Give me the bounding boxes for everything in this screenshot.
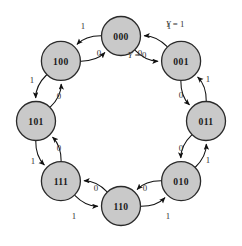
state-node-100[interactable]: 100 (41, 41, 80, 80)
transition-s100-to-s101 (36, 75, 47, 99)
states-layer: 000001011010110111101100 (17, 17, 226, 226)
state-transition-diagram: 1010101010101010 00000101101011011110110… (0, 0, 242, 246)
output-annotation-y-eq-0: Y = 0 (128, 50, 147, 60)
state-node-101[interactable]: 101 (17, 102, 56, 141)
transition-s010-to-s110 (137, 181, 162, 190)
transition-s100-to-s000 (80, 52, 105, 61)
transition-s110-to-s010 (141, 198, 166, 207)
transition-input-label: 0 (57, 143, 62, 153)
transition-input-label: 1 (30, 75, 34, 85)
transition-input-label: 1 (31, 156, 35, 166)
transition-input-label: 1 (206, 155, 210, 165)
transition-input-label: 1 (81, 21, 85, 31)
transition-s010-to-s011 (195, 144, 206, 168)
state-label: 111 (54, 176, 69, 187)
transition-input-label: 0 (143, 183, 148, 193)
state-node-010[interactable]: 010 (162, 162, 201, 201)
transition-s001-to-s000 (144, 36, 168, 47)
transition-input-label: 0 (57, 91, 62, 101)
output-equals: = (133, 50, 142, 60)
transition-s111-to-s110 (75, 195, 99, 206)
state-label: 011 (198, 116, 213, 127)
state-node-001[interactable]: 001 (162, 41, 201, 80)
transition-s000-to-s100 (77, 36, 102, 45)
transition-input-label: 0 (97, 48, 102, 58)
state-node-110[interactable]: 110 (102, 187, 141, 226)
transition-s101-to-s111 (36, 141, 45, 166)
output-equals: = (171, 19, 180, 29)
transition-input-label: 0 (94, 183, 99, 193)
output-annotation-y-eq-1: Y = 1 (166, 19, 185, 29)
state-label: 101 (28, 116, 44, 127)
transition-input-label: 0 (179, 90, 184, 100)
transition-input-label: 1 (166, 211, 170, 221)
transition-input-label: 1 (206, 74, 210, 84)
state-label: 100 (53, 56, 69, 67)
state-node-011[interactable]: 011 (187, 102, 226, 141)
state-label: 110 (113, 201, 128, 212)
state-label: 001 (173, 56, 189, 67)
state-label: 010 (173, 176, 189, 187)
state-label: 000 (113, 31, 129, 42)
output-value: 0 (142, 50, 147, 60)
transition-input-label: 1 (72, 211, 76, 221)
output-value: 1 (180, 19, 184, 29)
state-node-111[interactable]: 111 (41, 162, 80, 201)
state-diagram-container: 1010101010101010 00000101101011011110110… (0, 0, 242, 246)
transition-input-label: 0 (179, 143, 184, 153)
